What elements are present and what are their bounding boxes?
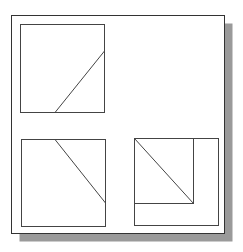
drawing-frame (12, 16, 225, 234)
diagram-canvas (0, 0, 243, 252)
